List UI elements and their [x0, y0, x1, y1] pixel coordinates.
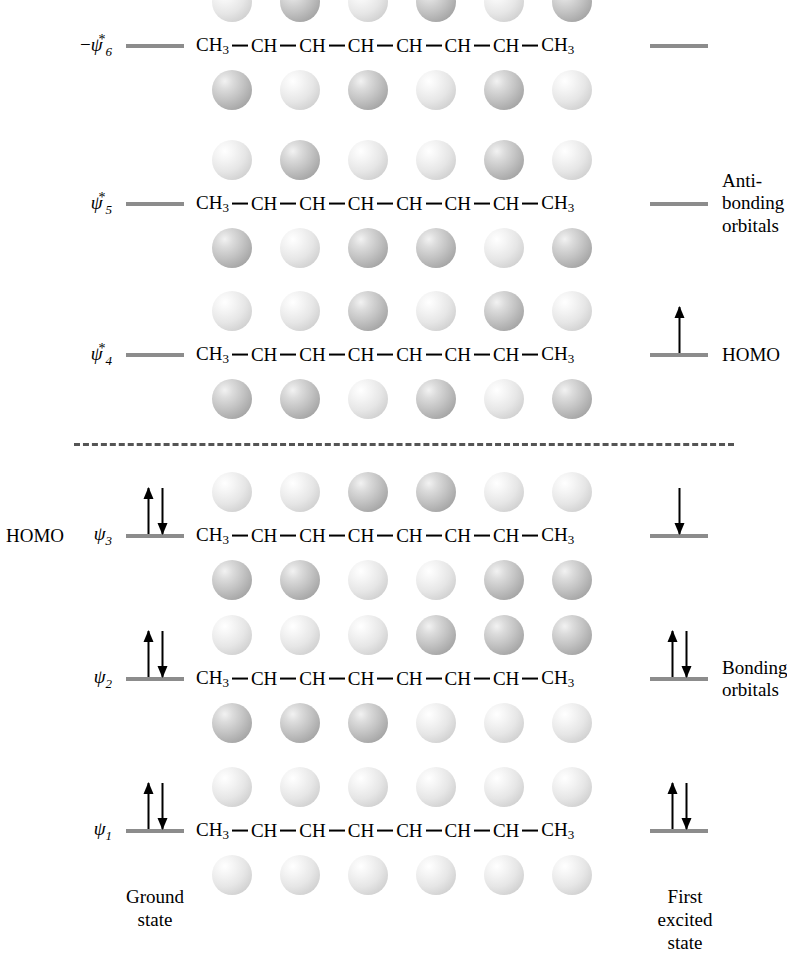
- chain-unit-ch: CH: [445, 525, 471, 547]
- arrow-head: [681, 666, 691, 678]
- p-orbital-lobe: [552, 560, 592, 600]
- chain-unit-ch: CH: [251, 668, 277, 690]
- p-orbital-lobe: [484, 228, 524, 268]
- p-orbital-lobe: [416, 767, 456, 807]
- chain-unit-ch: CH: [445, 344, 471, 366]
- chain-unit-ch: CH: [299, 35, 325, 57]
- p-orbital-lobe: [484, 703, 524, 743]
- chain-bond: [474, 678, 490, 680]
- chain-unit-ch3: CH3: [541, 343, 574, 368]
- chain-unit-ch: CH: [251, 344, 277, 366]
- chain-bond: [426, 354, 442, 356]
- orbital-label-psi6: −ψ*6: [80, 32, 112, 59]
- p-orbital-lobe: [348, 472, 388, 512]
- energy-bar-ground-psi3: [126, 534, 184, 538]
- chain-unit-ch: CH: [251, 525, 277, 547]
- p-orbital-lobe: [552, 615, 592, 655]
- chain-bond: [426, 830, 442, 832]
- energy-bar-excited-psi2: [650, 677, 708, 681]
- p-orbital-lobe: [552, 767, 592, 807]
- p-orbital-lobe: [212, 140, 252, 180]
- chain-bond: [232, 45, 248, 47]
- electron-arrow-down: [157, 488, 168, 534]
- side-note-homo_right: HOMO: [722, 344, 780, 366]
- chain-bond: [280, 830, 296, 832]
- chain-unit-ch: CH: [396, 820, 422, 842]
- side-note-homo_left: HOMO: [6, 525, 64, 547]
- chain-bond: [377, 535, 393, 537]
- arrow-head: [674, 523, 684, 535]
- orbital-label-psi4: ψ*4: [91, 341, 112, 368]
- p-orbital-lobe: [280, 767, 320, 807]
- chain-unit-ch: CH: [493, 35, 519, 57]
- chain-unit-ch: CH: [396, 525, 422, 547]
- p-orbital-lobe: [280, 0, 320, 22]
- electron-arrow-up: [667, 783, 678, 829]
- p-orbital-lobe: [484, 140, 524, 180]
- p-orbital-lobe: [552, 70, 592, 110]
- chain-bond: [232, 354, 248, 356]
- chain-bond: [474, 354, 490, 356]
- energy-bar-ground-psi4: [126, 353, 184, 357]
- p-orbital-lobe: [552, 855, 592, 895]
- p-orbital-lobe: [348, 767, 388, 807]
- chain-bond: [329, 354, 345, 356]
- p-orbital-lobe: [348, 0, 388, 22]
- p-orbital-lobe: [212, 615, 252, 655]
- chain-bond: [426, 678, 442, 680]
- p-orbital-lobe: [416, 140, 456, 180]
- p-orbital-lobe: [416, 703, 456, 743]
- p-orbital-lobe: [348, 379, 388, 419]
- chain-unit-ch: CH: [251, 820, 277, 842]
- chain-bond: [474, 830, 490, 832]
- chain-unit-ch: CH: [396, 344, 422, 366]
- molecule-chain: CH3CHCHCHCHCHCHCH3: [196, 343, 574, 368]
- chain-unit-ch: CH: [445, 35, 471, 57]
- chain-unit-ch: CH: [348, 35, 374, 57]
- chain-unit-ch: CH: [396, 193, 422, 215]
- chain-unit-ch: CH: [445, 668, 471, 690]
- electron-arrow-up: [143, 631, 154, 677]
- arrow-head: [143, 630, 153, 642]
- chain-unit-ch: CH: [493, 668, 519, 690]
- p-orbital-lobe: [484, 615, 524, 655]
- electron-arrow-down: [674, 488, 685, 534]
- p-orbital-lobe: [212, 472, 252, 512]
- p-orbital-lobe: [416, 0, 456, 22]
- caption-ground-state: Ground state: [126, 886, 184, 932]
- p-orbital-lobe: [416, 855, 456, 895]
- p-orbital-lobe: [280, 228, 320, 268]
- p-orbital-lobe: [416, 228, 456, 268]
- chain-bond: [232, 203, 248, 205]
- chain-bond: [426, 45, 442, 47]
- p-orbital-lobe: [348, 560, 388, 600]
- chain-unit-ch: CH: [348, 668, 374, 690]
- chain-bond: [474, 45, 490, 47]
- chain-unit-ch3: CH3: [541, 34, 574, 59]
- p-orbital-lobe: [212, 767, 252, 807]
- orbital-label-psi3: ψ3: [94, 523, 112, 548]
- chain-bond: [522, 678, 538, 680]
- chain-bond: [522, 354, 538, 356]
- energy-bar-excited-psi6: [650, 44, 708, 48]
- p-orbital-lobe: [416, 291, 456, 331]
- arrow-head: [143, 487, 153, 499]
- chain-bond: [280, 203, 296, 205]
- p-orbital-lobe: [416, 70, 456, 110]
- chain-unit-ch: CH: [493, 193, 519, 215]
- energy-bar-ground-psi6: [126, 44, 184, 48]
- chain-bond: [280, 354, 296, 356]
- chain-bond: [329, 203, 345, 205]
- chain-bond: [522, 535, 538, 537]
- arrow-head: [681, 818, 691, 830]
- p-orbital-lobe: [348, 70, 388, 110]
- p-orbital-lobe: [484, 560, 524, 600]
- arrow-head: [157, 818, 167, 830]
- molecule-chain: CH3CHCHCHCHCHCHCH3: [196, 34, 574, 59]
- energy-bar-excited-psi1: [650, 829, 708, 833]
- chain-bond: [280, 535, 296, 537]
- arrow-head: [674, 306, 684, 318]
- p-orbital-lobe: [280, 140, 320, 180]
- p-orbital-lobe: [416, 472, 456, 512]
